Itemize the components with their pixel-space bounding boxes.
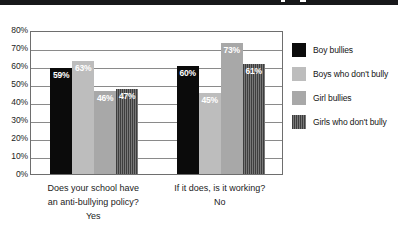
bar-value-label: 59% — [50, 70, 72, 80]
y-axis-tick-label: 30% — [2, 116, 28, 125]
bar-value-label: 47% — [116, 91, 138, 101]
legend-swatch-icon — [292, 91, 306, 105]
chart-legend: Boy bulliesBoys who don't bullyGirl bull… — [292, 38, 398, 134]
legend-item-1[interactable]: Boy bullies — [292, 38, 398, 62]
bar-chart: 0%10%20%30%40%50%60%70%80% 59%63%46%47%6… — [0, 5, 398, 229]
y-axis-tick-label: 60% — [2, 62, 28, 71]
legend-item-label: Girl bullies — [313, 93, 351, 103]
legend-item-label: Girls who don't bully — [313, 117, 387, 127]
legend-swatch-icon — [292, 115, 306, 129]
bar-value-label: 60% — [177, 68, 199, 78]
y-axis-tick-label: 20% — [2, 134, 28, 143]
bar: 63% — [72, 61, 94, 174]
gridline — [31, 50, 282, 51]
legend-item-2[interactable]: Boys who don't bully — [292, 62, 398, 86]
y-axis-tick-label: 0% — [2, 170, 28, 179]
y-axis-tick-label: 70% — [2, 44, 28, 53]
bar-value-label: 45% — [199, 95, 221, 105]
plot-area: 59%63%46%47%60%45%73%61% — [30, 31, 283, 175]
legend-item-4[interactable]: Girls who don't bully — [292, 110, 398, 134]
bar: 61% — [243, 64, 265, 174]
y-axis-tick-label: 80% — [2, 26, 28, 35]
bar: 47% — [116, 89, 138, 174]
bar: 46% — [94, 91, 116, 174]
y-axis-tick-label: 40% — [2, 98, 28, 107]
legend-item-3[interactable]: Girl bullies — [292, 86, 398, 110]
bar-value-label: 61% — [243, 66, 265, 76]
y-axis-tick-label: 10% — [2, 152, 28, 161]
bar: 73% — [221, 43, 243, 174]
header-strip-highlight — [281, 0, 285, 2]
legend-item-label: Boys who don't bully — [313, 69, 388, 79]
legend-item-label: Boy bullies — [313, 45, 353, 55]
bar: 59% — [50, 68, 72, 174]
legend-swatch-icon — [292, 43, 306, 57]
bar-value-label: 46% — [94, 93, 116, 103]
header-strip-highlight — [300, 0, 306, 2]
x-axis-category-line: If it does, is it working? — [145, 181, 296, 195]
y-axis-tick-label: 50% — [2, 80, 28, 89]
bar-value-label: 73% — [221, 45, 243, 55]
x-axis-category-line: No — [145, 195, 296, 209]
y-axis: 0%10%20%30%40%50%60%70%80% — [0, 31, 28, 175]
x-axis-category-line: Yes — [18, 209, 169, 223]
x-axis-category-label: If it does, is it working?No — [145, 181, 296, 209]
bar: 45% — [199, 93, 221, 174]
legend-swatch-icon — [292, 67, 306, 81]
bar: 60% — [177, 66, 199, 174]
bar-value-label: 63% — [72, 63, 94, 73]
